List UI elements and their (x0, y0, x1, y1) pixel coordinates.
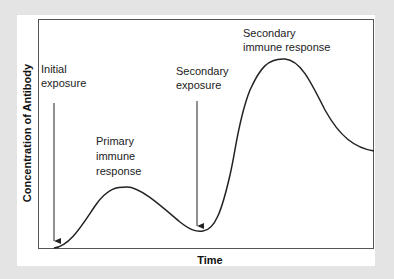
secondary-exposure-label: Secondary (176, 65, 229, 77)
primary-response-label-3: response (96, 165, 141, 177)
x-axis-label: Time (197, 254, 222, 266)
secondary-response-label: Secondary (243, 27, 296, 39)
primary-response-label: Primary (96, 135, 134, 147)
secondary-exposure-label-2: exposure (176, 79, 221, 91)
secondary-response-label-2: immune response (243, 41, 330, 53)
initial-exposure-label-2: exposure (41, 77, 86, 89)
y-axis-label: Concentration of Antibody (21, 63, 33, 202)
antibody-response-diagram: Initial exposure Primary immune response… (0, 0, 394, 279)
initial-exposure-label: Initial (41, 63, 67, 75)
primary-response-label-2: immune (96, 150, 135, 162)
